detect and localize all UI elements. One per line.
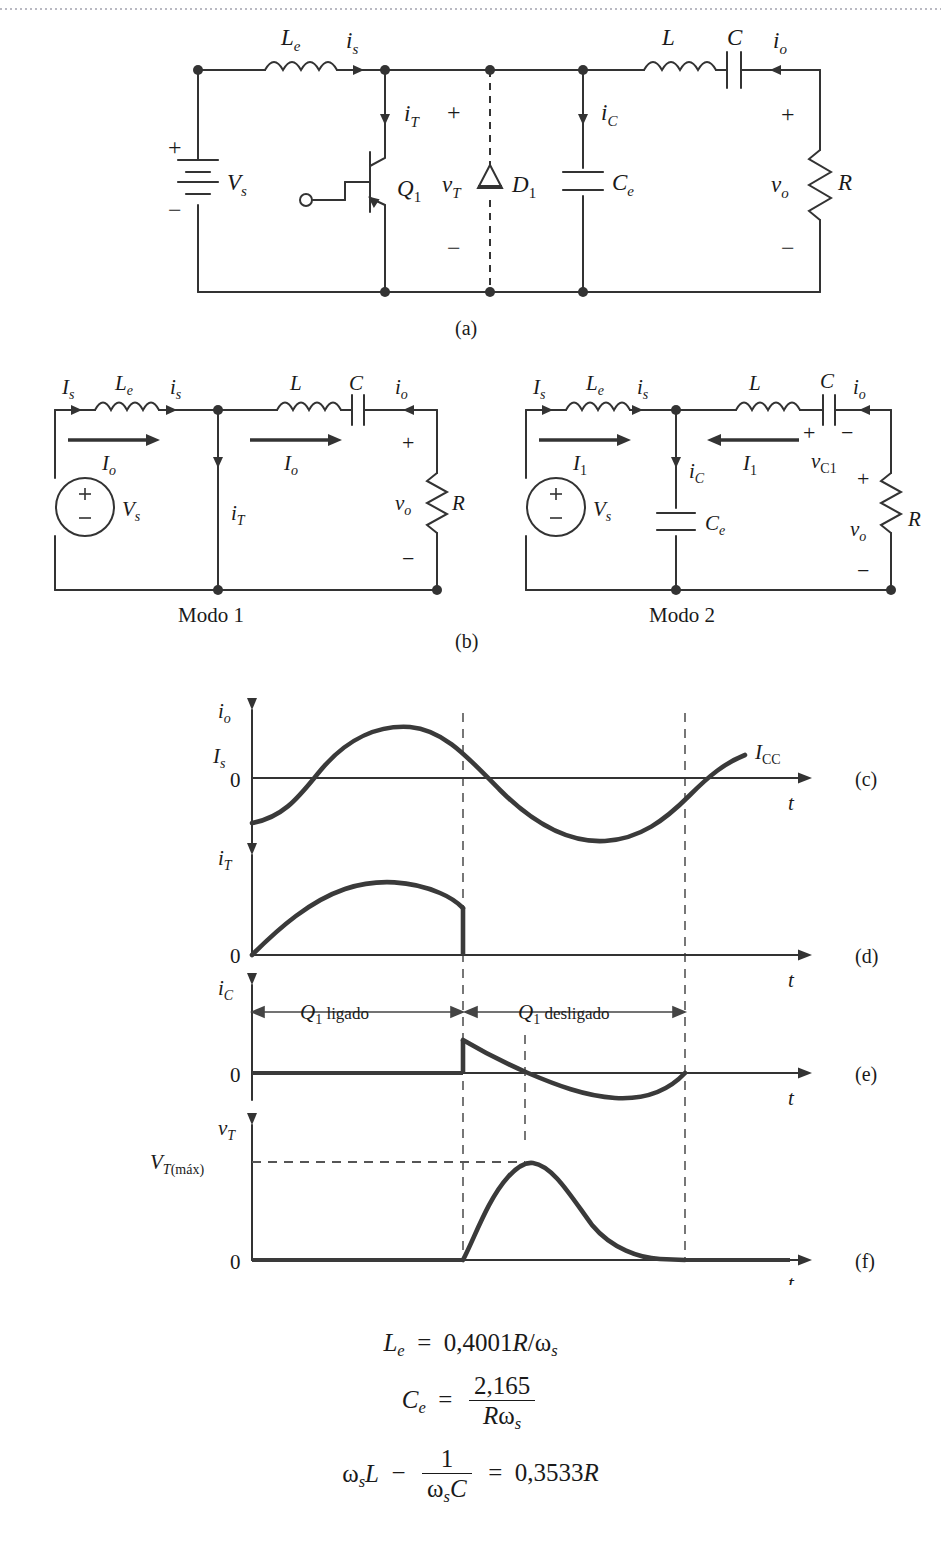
mode1-label-Io-right: Io xyxy=(283,451,298,478)
label-resistor-r: R xyxy=(837,170,852,195)
plot-c-curve xyxy=(252,727,745,841)
label-capacitor-ce: Ce xyxy=(612,170,634,199)
mode1-label-iT: iT xyxy=(231,501,246,528)
mode1-label-Io-left: Io xyxy=(101,451,116,478)
plot-f-label-vtmax: VT(máx) xyxy=(150,1150,204,1178)
mode1-label-L: L xyxy=(289,371,302,395)
mode2-label-vo-plus: + xyxy=(857,466,869,491)
timing-label-off: Q1 desligado xyxy=(518,1000,610,1027)
equation-wl: ωsL − 1 ωsC = 0,3533R xyxy=(0,1446,941,1505)
label-inductor-l: L xyxy=(661,25,675,50)
equation-ce: Ce = 2,165 Rωs xyxy=(0,1373,941,1432)
transistor-q1-symbol xyxy=(300,145,385,218)
plot-c-x-arrowhead xyxy=(798,773,812,784)
circuit-diagram-a: Le is iT Vs + − Q1 + vT − D1 iC Ce L C i… xyxy=(0,0,941,340)
plot-d-curve xyxy=(252,882,463,955)
plot-e-zero: 0 xyxy=(230,1063,241,1087)
mode2-label-Le: Le xyxy=(585,371,604,398)
mode2-label-L: L xyxy=(748,371,761,395)
figure-page: Le is iT Vs + − Q1 + vT − D1 iC Ce L C i… xyxy=(0,0,941,1553)
mode2-label-R: R xyxy=(907,507,921,531)
is-arrow xyxy=(353,65,364,75)
panel-label-b-wrap: (b) xyxy=(0,622,941,662)
label-inductor-le: Le xyxy=(280,25,301,54)
plot-d-xlabel: t xyxy=(788,968,795,992)
mode2-label-vo-minus: − xyxy=(857,558,869,583)
plot-c-xlabel: t xyxy=(788,791,795,815)
mode1-io-arrows xyxy=(68,434,342,446)
battery-symbol xyxy=(178,160,218,194)
panel-label-d: (d) xyxy=(855,945,878,968)
mode2-label-I1-left: I1 xyxy=(572,451,587,478)
plot-e-iC: Q1 ligado Q1 desligado iC 0 t (e) xyxy=(218,973,877,1110)
mode2-label-io: io xyxy=(853,375,866,402)
fraction-ce: 2,165 Rωs xyxy=(469,1373,535,1432)
equation-le: Le = 0,4001R/ωs xyxy=(0,1330,941,1359)
mode2-capacitor-ce-symbol xyxy=(657,513,695,530)
label-capacitor-c: C xyxy=(727,25,743,50)
panel-label-e: (e) xyxy=(855,1063,877,1086)
mode1-label-C: C xyxy=(349,371,364,395)
label-source-vs: Vs xyxy=(227,170,247,199)
mode1-label-vo-minus: − xyxy=(402,546,414,571)
label-vs-plus: + xyxy=(168,134,182,160)
mode1-source-polarity xyxy=(79,488,91,518)
panel-label-b: (b) xyxy=(455,630,478,653)
mode1-label-io: io xyxy=(395,375,408,402)
mode2-arrowheads xyxy=(542,405,870,468)
plot-c-label-Icc: ICC xyxy=(754,740,781,767)
timing-label-on: Q1 ligado xyxy=(300,1000,369,1027)
mode2-label-Is: Is xyxy=(532,375,546,402)
plot-d-iT: iT 0 t (d) xyxy=(218,843,878,992)
mode1-label-Vs: Vs xyxy=(122,497,141,524)
plot-f-zero: 0 xyxy=(230,1250,241,1274)
plot-e-ylabel: iC xyxy=(218,976,234,1003)
mode2-label-Ce: Ce xyxy=(705,511,725,538)
plot-f-xlabel: t xyxy=(788,1271,795,1285)
circuit-diagram-mode1: Is Le is Io L Io C io iT Vs + vo − R Mod… xyxy=(0,368,470,628)
label-transistor-q1: Q1 xyxy=(397,176,421,205)
capacitor-ce-symbol xyxy=(563,172,603,190)
label-current-is: is xyxy=(346,28,358,57)
circuit-diagram-mode2: Is Le is I1 L I1 C + − vC1 io iC Ce Vs +… xyxy=(471,368,941,628)
mode2-label-vo: vo xyxy=(850,517,866,544)
plot-c-ylabel: io xyxy=(218,699,231,726)
label-current-ic: iC xyxy=(601,100,618,129)
plot-f-ylabel: vT xyxy=(218,1116,236,1143)
panel-label-a: (a) xyxy=(455,317,477,340)
mode2-label-Vs: Vs xyxy=(593,497,612,524)
circuit-nodes-a xyxy=(193,65,588,297)
fraction-wsc: 1 ωsC xyxy=(422,1446,472,1505)
mode2-label-is: is xyxy=(637,375,649,402)
plot-d-zero: 0 xyxy=(230,944,241,968)
mode2-label-C: C xyxy=(820,369,835,393)
label-current-it: iT xyxy=(404,101,420,130)
waveform-plots: io Is 0 t ICC (c) iT 0 t (d) xyxy=(0,665,941,1285)
mode1-label-vo: vo xyxy=(395,491,411,518)
ic-arrow xyxy=(578,114,588,125)
plot-e-x-arrowhead xyxy=(798,1068,812,1079)
mode2-label-vC1: vC1 xyxy=(811,449,837,476)
panel-label-c: (c) xyxy=(855,768,877,791)
label-current-io: io xyxy=(773,28,787,57)
plot-f-curve xyxy=(463,1163,685,1260)
mode1-label-Is: Is xyxy=(61,375,75,402)
plot-d-ylabel: iT xyxy=(218,846,233,873)
plot-d-x-arrowhead xyxy=(798,950,812,961)
plot-e-curve xyxy=(463,1040,685,1098)
label-diode-d1: D1 xyxy=(511,172,536,201)
label-voltage-vt: vT xyxy=(442,172,462,201)
timing-guides xyxy=(463,713,685,1260)
plot-c-y-arrowhead xyxy=(247,698,257,710)
label-vo-plus: + xyxy=(781,101,795,127)
mode1-label-Le: Le xyxy=(114,371,133,398)
label-vt-plus: + xyxy=(447,99,461,125)
mode2-label-vc1-plus: + xyxy=(803,420,815,445)
plot-e-y-arrowhead xyxy=(247,973,257,985)
label-vs-minus: − xyxy=(168,197,182,223)
equations-block: Le = 0,4001R/ωs Ce = 2,165 Rωs ωsL − 1 ω… xyxy=(0,1330,941,1519)
plot-f-y-arrowhead xyxy=(247,1113,257,1125)
mode1-label-is: is xyxy=(170,375,182,402)
mode2-label-vc1-minus: − xyxy=(841,420,853,445)
mode2-label-I1-right: I1 xyxy=(742,451,757,478)
